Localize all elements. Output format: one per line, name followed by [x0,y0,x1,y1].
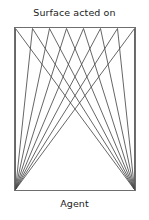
agent-label: Agent [0,198,149,210]
ray-right-3 [67,29,135,190]
ray-diagram [0,0,149,220]
ray-left-2 [16,29,50,190]
ray-left-3 [16,29,67,190]
ray-right-2 [50,29,135,190]
ray-left-6 [16,29,118,190]
ray-right-6 [118,29,135,190]
diagram-figure: Surface acted on Agent [0,0,149,220]
ray-left-5 [16,29,101,190]
ray-right-5 [101,29,135,190]
ray-right-4 [84,29,135,190]
ray-left-4 [16,29,84,190]
ray-left-1 [16,29,33,190]
ray-right-1 [33,29,135,190]
